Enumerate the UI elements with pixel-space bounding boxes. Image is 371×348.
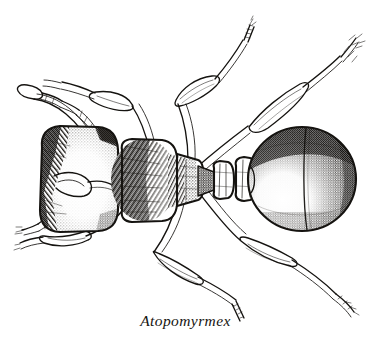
petiole-node — [214, 161, 234, 199]
figure-caption: Atopomyrmex — [0, 312, 371, 330]
figure-root: .ln {fill:none;stroke:#151310;stroke-lin… — [0, 0, 371, 348]
ant-illustration: .ln {fill:none;stroke:#151310;stroke-lin… — [0, 0, 371, 348]
